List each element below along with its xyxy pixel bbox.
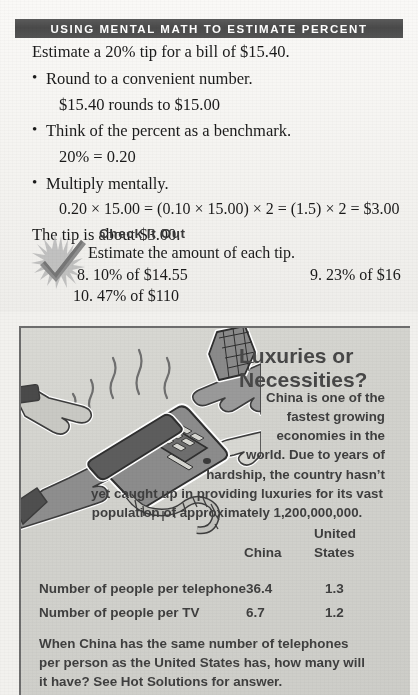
lesson-bullet-3-text: Multiply mentally. [46, 175, 169, 192]
closing-line-3: it have? See Hot Solutions for answer. [39, 674, 282, 689]
lesson-bullet-3-detail: 0.20 × 15.00 = (0.10 × 15.00) × 2 = (1.5… [59, 201, 410, 218]
lesson-bullet-3: • Multiply mentally. [32, 175, 410, 192]
lesson-bullet-2-text: Think of the percent as a benchmark. [46, 122, 291, 139]
lesson-bullet-1-detail: $15.40 rounds to $15.00 [59, 96, 410, 113]
bullet-glyph-icon: • [32, 122, 46, 139]
paragraph-line-7: population of approximately 1,200,000,00… [33, 503, 401, 522]
feature-panel: Luxuries or Necessities? China is one of… [19, 326, 410, 695]
bullet-glyph-icon: • [32, 175, 46, 192]
paragraph-line-5: hardship, the country hasn’t [33, 465, 401, 484]
table-header-china: China [244, 545, 282, 560]
section-heading-title: USING MENTAL MATH TO ESTIMATE PERCENT [51, 23, 368, 35]
section-heading-band: USING MENTAL MATH TO ESTIMATE PERCENT [15, 19, 403, 38]
paragraph-line-4: world. Due to years of [33, 445, 401, 464]
feature-title-line-1: Luxuries or [239, 344, 353, 367]
feature-panel-paragraph: China is one of the fastest growing econ… [33, 388, 401, 522]
exercise-item-8: 8. 10% of $14.55 [77, 266, 188, 284]
closing-line-1: When China has the same number of teleph… [39, 636, 349, 651]
closing-line-2: per person as the United States has, how… [39, 655, 365, 670]
feature-panel-closing-question: When China has the same number of teleph… [39, 634, 399, 691]
bullet-glyph-icon: • [32, 70, 46, 87]
feature-panel-title: Luxuries or Necessities? [239, 344, 407, 391]
table-row-label: Number of people per telephone [39, 581, 246, 596]
table-cell-united-states: 1.3 [325, 581, 344, 596]
lesson-bullet-1: • Round to a convenient number. [32, 70, 410, 87]
table-header-united: United [314, 526, 356, 541]
paragraph-line-1: China is one of the [33, 388, 401, 407]
lesson-intro: Estimate a 20% tip for a bill of $15.40. [32, 44, 410, 61]
lesson-bullet-1-text: Round to a convenient number. [46, 70, 253, 87]
table-row-label: Number of people per TV [39, 605, 200, 620]
lesson-bullet-2-detail: 20% = 0.20 [59, 148, 410, 165]
exercise-item-10: 10. 47% of $110 [73, 287, 179, 305]
lesson-body: Estimate a 20% tip for a bill of $15.40.… [32, 44, 410, 252]
paragraph-line-3: economies in the [33, 426, 401, 445]
check-it-out-instruction: Estimate the amount of each tip. [88, 244, 295, 262]
check-it-out-heading: Check It Out [99, 226, 186, 241]
paragraph-line-2: fastest growing [33, 407, 401, 426]
table-header-states: States [314, 545, 355, 560]
table-cell-china: 6.7 [246, 605, 265, 620]
table-cell-china: 36.4 [246, 581, 272, 596]
paragraph-line-6: yet caught up in providing luxuries for … [33, 484, 401, 503]
table-cell-united-states: 1.2 [325, 605, 344, 620]
exercise-item-9: 9. 23% of $16 [310, 266, 401, 284]
lesson-bullet-2: • Think of the percent as a benchmark. [32, 122, 410, 139]
